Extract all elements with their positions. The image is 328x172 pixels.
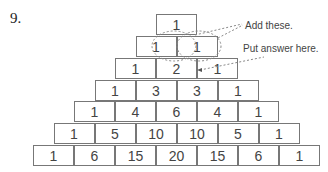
add-ellipse-left — [152, 31, 196, 61]
answer-pointer-line — [200, 57, 264, 70]
arrow-head-icon — [197, 68, 202, 72]
add-pointer-line-2 — [195, 24, 242, 35]
put-answer-note: Put answer here. — [243, 43, 319, 54]
add-these-note: Add these. — [245, 20, 293, 31]
add-ellipse-right — [177, 31, 221, 61]
